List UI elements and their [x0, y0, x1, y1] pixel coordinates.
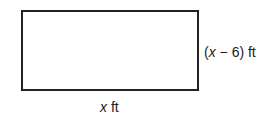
- bottom-length-label: x ft: [100, 99, 119, 115]
- bottom-unit: ft: [107, 99, 119, 115]
- side-length-label: (x − 6) ft: [204, 44, 256, 60]
- rectangle: [21, 10, 199, 91]
- side-expression: − 6) ft: [216, 44, 256, 60]
- bottom-variable: x: [100, 99, 107, 115]
- side-variable: x: [209, 44, 216, 60]
